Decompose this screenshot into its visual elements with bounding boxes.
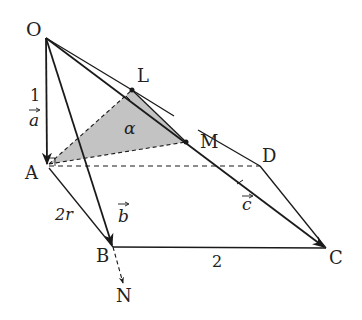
label-C: C <box>329 247 343 268</box>
label-B: B <box>96 245 109 266</box>
label-L: L <box>137 65 149 86</box>
ray-BN-dashed <box>113 247 123 283</box>
label-edge-AB-length: 2r <box>54 205 74 224</box>
label-vector-b: b <box>118 206 129 226</box>
edge-BC <box>113 247 326 248</box>
label-O: O <box>26 18 42 40</box>
label-edge-OA-length: 1 <box>30 86 40 105</box>
point-L <box>130 88 135 93</box>
label-M: M <box>200 131 218 152</box>
edge-OD <box>46 38 132 90</box>
label-edge-BC-length: 2 <box>212 252 222 271</box>
geometry-diagram: O A B C D L M N α 1 a 2r b c 2 <box>0 0 362 320</box>
label-N: N <box>116 285 132 306</box>
label-vector-a: a <box>29 110 39 130</box>
point-M <box>184 140 189 145</box>
label-alpha: α <box>124 118 136 138</box>
label-D: D <box>262 145 276 166</box>
label-A: A <box>24 162 39 183</box>
vector-a <box>46 38 47 164</box>
